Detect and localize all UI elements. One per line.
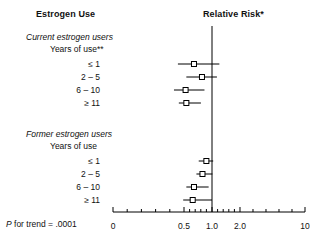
x-axis-tick-label: 2.0 (234, 221, 246, 231)
p-trend-text: for trend = .0001 (12, 219, 77, 229)
point-estimate-marker (191, 185, 196, 190)
forest-plot-canvas (0, 0, 324, 239)
x-axis-group (113, 207, 305, 212)
x-axis-tick-label: 1.0 (206, 221, 218, 231)
x-axis-tick-label: 0 (111, 221, 116, 231)
point-estimate-marker (190, 198, 195, 203)
point-estimate-marker (183, 88, 188, 93)
point-estimate-marker (204, 159, 209, 164)
x-axis-tick-label: 0.5 (178, 221, 190, 231)
point-estimate-marker (184, 101, 189, 106)
confidence-interval-group (174, 62, 219, 203)
point-estimate-marker (200, 172, 205, 177)
forest-plot-figure: Estrogen Use Relative Risk* Current estr… (0, 0, 324, 239)
point-estimate-marker (191, 62, 196, 67)
point-estimate-marker (199, 75, 204, 80)
p-for-trend-footnote: P for trend = .0001 (6, 219, 77, 229)
x-axis-tick-label: 10 (300, 221, 309, 231)
